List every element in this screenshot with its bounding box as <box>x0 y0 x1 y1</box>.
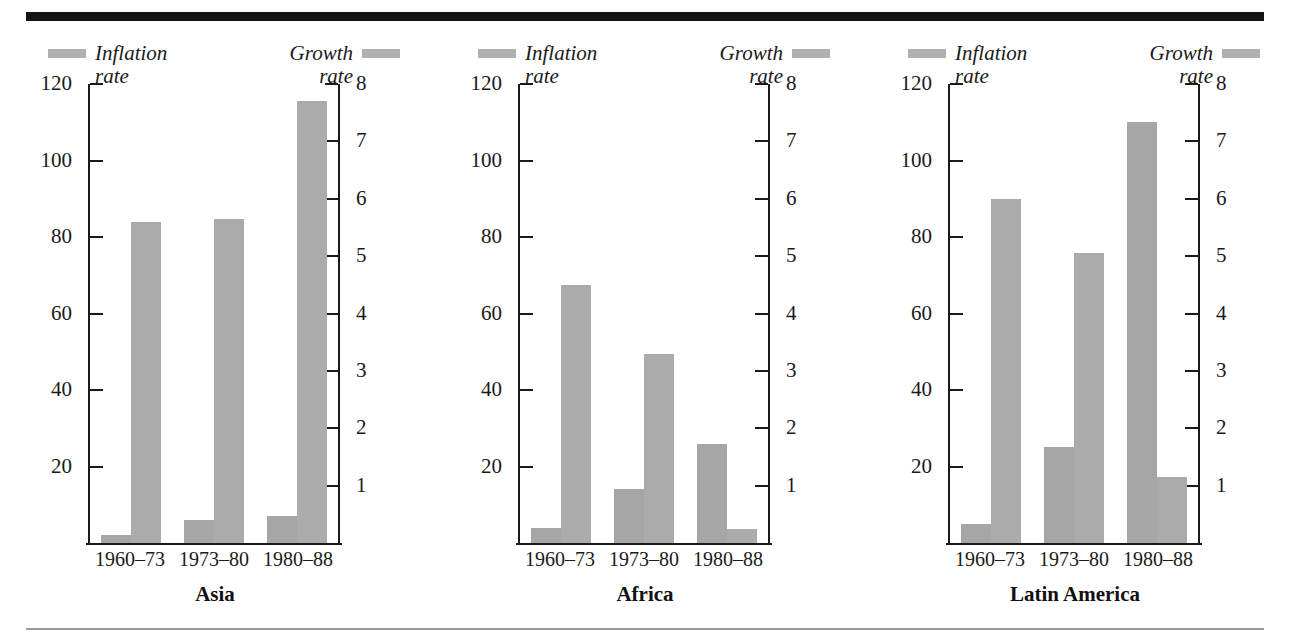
bar-group <box>178 84 250 543</box>
y-axis-left-tick-label: 60 <box>911 303 932 324</box>
y-axis-right-tick-label: 3 <box>1216 360 1227 381</box>
x-axis-tick-label: 1973–80 <box>1038 548 1110 571</box>
bar-inflation <box>614 489 644 543</box>
y-axis-right-tick-label: 8 <box>1216 73 1227 94</box>
y-axis-right-tick-label: 1 <box>1216 475 1227 496</box>
y-axis-right-tick-label: 4 <box>786 303 797 324</box>
legend-item-growth: Growth rate <box>1150 42 1260 88</box>
y-axis-right-tick-label: 6 <box>1216 188 1227 209</box>
y-axis-right-tick-label: 8 <box>786 73 797 94</box>
y-axis-right-tick-label: 2 <box>356 417 367 438</box>
plot-area: 2040608010012012345678 <box>948 84 1200 543</box>
bar-growth <box>131 222 161 543</box>
y-axis-right-spine <box>338 84 340 543</box>
top-rule <box>26 12 1264 21</box>
y-axis-right-tick-label: 3 <box>786 360 797 381</box>
y-axis-right-tick-label: 5 <box>786 245 797 266</box>
bar-groups <box>520 84 768 543</box>
bar-group <box>95 84 167 543</box>
legend-swatch-growth-icon <box>792 49 830 58</box>
y-axis-right-tick-label: 7 <box>356 130 367 151</box>
y-axis-left-tick-label: 40 <box>51 379 72 400</box>
y-axis-left-tick-label: 80 <box>481 226 502 247</box>
bottom-rule <box>26 628 1264 630</box>
bar-group <box>261 84 333 543</box>
bar-group <box>1038 84 1110 543</box>
bar-inflation <box>1044 447 1074 543</box>
bar-group <box>691 84 763 543</box>
bar-growth <box>561 285 591 543</box>
bar-group <box>955 84 1027 543</box>
y-axis-left-tick-label: 100 <box>901 150 933 171</box>
x-axis-tick-label: 1973–80 <box>608 548 680 571</box>
bar-group <box>1121 84 1193 543</box>
y-axis-left-tick-label: 60 <box>481 303 502 324</box>
y-axis-right-tick-label: 7 <box>1216 130 1227 151</box>
bar-inflation <box>697 444 727 543</box>
legend-label-inflation: Inflation rate <box>955 42 1027 88</box>
x-axis-tick-label: 1960–73 <box>954 548 1026 571</box>
y-axis-left-tick-label: 60 <box>51 303 72 324</box>
y-axis-left-tick-label: 40 <box>481 379 502 400</box>
y-axis-left-tick-label: 80 <box>51 226 72 247</box>
x-axis-labels: 1960–731973–801980–88 <box>88 548 340 576</box>
plot-area: 2040608010012012345678 <box>518 84 770 543</box>
bar-inflation <box>101 535 131 543</box>
legend-label-growth: Growth rate <box>290 42 353 88</box>
y-axis-right-tick-label: 5 <box>1216 245 1227 266</box>
panel-row: Inflation rateGrowth rate204060801001201… <box>0 30 1290 630</box>
x-axis-baseline <box>86 543 342 545</box>
x-axis-tick-label: 1980–88 <box>1122 548 1194 571</box>
y-axis-right-tick-label: 5 <box>356 245 367 266</box>
legend-swatch-inflation-icon <box>478 49 516 58</box>
bar-growth <box>1157 477 1187 543</box>
chart-panel-africa: Inflation rateGrowth rate204060801001201… <box>430 30 860 630</box>
bar-inflation <box>531 528 561 543</box>
y-axis-right-spine <box>1198 84 1200 543</box>
plot-area: 2040608010012012345678 <box>88 84 340 543</box>
y-axis-left-tick-label: 40 <box>911 379 932 400</box>
bar-inflation <box>267 516 297 543</box>
bar-groups <box>950 84 1198 543</box>
y-axis-left-tick-label: 20 <box>51 456 72 477</box>
bar-inflation <box>1127 122 1157 543</box>
bar-inflation <box>184 520 214 543</box>
y-axis-right-tick-label: 3 <box>356 360 367 381</box>
legend-item-growth: Growth rate <box>290 42 400 88</box>
legend-label-growth: Growth rate <box>720 42 783 88</box>
y-axis-left-tick-label: 120 <box>471 73 503 94</box>
bar-growth <box>297 101 327 543</box>
legend-swatch-growth-icon <box>1222 49 1260 58</box>
bar-inflation <box>961 524 991 543</box>
x-axis-labels: 1960–731973–801980–88 <box>948 548 1200 576</box>
chart-panel-asia: Inflation rateGrowth rate204060801001201… <box>0 30 430 630</box>
panel-title: Latin America <box>860 582 1290 607</box>
y-axis-right-spine <box>768 84 770 543</box>
x-axis-tick-label: 1960–73 <box>524 548 596 571</box>
y-axis-right-tick-label: 1 <box>356 475 367 496</box>
legend-swatch-inflation-icon <box>908 49 946 58</box>
y-axis-left-tick-label: 20 <box>911 456 932 477</box>
bar-growth <box>991 199 1021 543</box>
y-axis-right-tick-label: 2 <box>1216 417 1227 438</box>
y-axis-left-tick-label: 20 <box>481 456 502 477</box>
bar-groups <box>90 84 338 543</box>
legend-label-inflation: Inflation rate <box>95 42 167 88</box>
y-axis-right-tick-label: 2 <box>786 417 797 438</box>
chart-panel-latin-america: Inflation rateGrowth rate204060801001201… <box>860 30 1290 630</box>
bar-group <box>525 84 597 543</box>
x-axis-tick-label: 1973–80 <box>178 548 250 571</box>
bar-growth <box>727 529 757 543</box>
y-axis-right-tick-label: 6 <box>786 188 797 209</box>
y-axis-left-tick-label: 100 <box>471 150 503 171</box>
x-axis-tick-label: 1980–88 <box>262 548 334 571</box>
panel-title: Africa <box>430 582 860 607</box>
legend-label-inflation: Inflation rate <box>525 42 597 88</box>
y-axis-left-tick-label: 120 <box>901 73 933 94</box>
y-axis-right-tick-label: 4 <box>1216 303 1227 324</box>
legend-label-growth: Growth rate <box>1150 42 1213 88</box>
x-axis-labels: 1960–731973–801980–88 <box>518 548 770 576</box>
x-axis-baseline <box>516 543 772 545</box>
y-axis-right-tick-label: 8 <box>356 73 367 94</box>
panel-title: Asia <box>0 582 430 607</box>
